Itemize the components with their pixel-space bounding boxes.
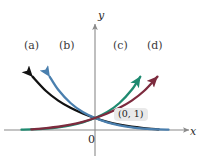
- y-axis-label: y: [98, 10, 104, 21]
- curve-a: [33, 77, 159, 130]
- x-axis-label: x: [190, 126, 196, 137]
- curve-label-b: (b): [59, 40, 75, 51]
- curve-label-d: (d): [147, 40, 163, 51]
- origin-label: 0: [88, 134, 95, 145]
- curve-label-a: (a): [24, 40, 39, 51]
- curve-label-c: (c): [113, 40, 128, 51]
- intersection-point-label: (0, 1): [114, 108, 148, 121]
- exponential-functions-figure: (a) (b) (c) (d) y x 0 (0, 1): [0, 0, 204, 163]
- plot-canvas: [0, 0, 204, 163]
- curve-d: [31, 77, 157, 130]
